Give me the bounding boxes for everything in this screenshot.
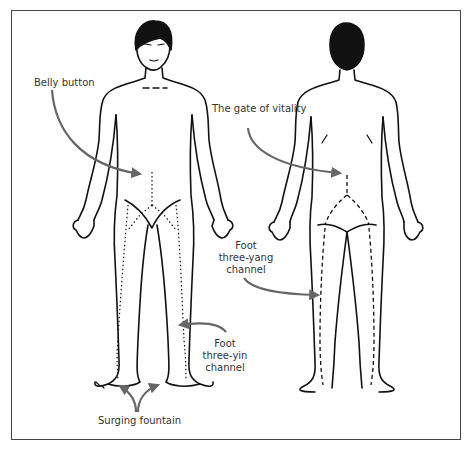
back-yang-channel-left xyxy=(320,228,325,385)
front-yin-channel-right xyxy=(176,205,186,380)
back-figure xyxy=(269,23,423,392)
foot-three-yang-label: Foot three-yang channel xyxy=(216,240,276,276)
surging-fountain-label: Surging fountain xyxy=(98,415,178,427)
surging-fountain-arrow-right xyxy=(138,385,158,412)
foot-three-yang-arrow xyxy=(244,278,318,295)
front-face xyxy=(137,45,170,70)
foot-three-yin-label: Foot three-yin channel xyxy=(200,338,250,374)
foot-three-yin-arrow xyxy=(180,323,226,332)
belly-button-label: Belly button xyxy=(34,77,95,89)
front-figure xyxy=(73,21,233,388)
channel-diagram xyxy=(0,0,467,449)
back-yang-channel-right xyxy=(369,228,374,385)
front-hair xyxy=(135,21,171,50)
surging-fountain-arrow-left xyxy=(120,386,136,412)
back-head xyxy=(330,23,364,70)
gate-of-vitality-label: The gate of vitality xyxy=(212,103,306,115)
